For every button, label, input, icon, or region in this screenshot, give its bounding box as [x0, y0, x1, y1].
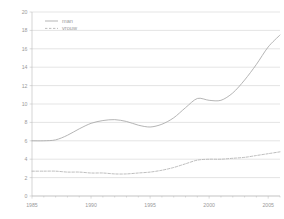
x-tick-label-2005: 2005: [262, 202, 274, 208]
y-tick-label-8: 8: [25, 119, 28, 125]
series-group: [32, 35, 280, 174]
x-tick-label-2000: 2000: [203, 202, 215, 208]
y-tick-label-4: 4: [25, 156, 28, 162]
x-tick-label-1985: 1985: [26, 202, 38, 208]
legend-label-vrouw: vrouw: [62, 25, 78, 31]
y-tick-label-18: 18: [22, 27, 28, 33]
y-tick-label-20: 20: [22, 9, 28, 15]
x-tick-label-1990: 1990: [85, 202, 97, 208]
chart-canvas: 02468101214161820 19851990199520002005 m…: [0, 0, 284, 219]
series-line-vrouw: [32, 152, 280, 174]
x-axis: [32, 196, 280, 199]
x-tick-label-1995: 1995: [144, 202, 156, 208]
y-tick-label-0: 0: [25, 193, 28, 199]
legend: manvrouw: [45, 18, 78, 31]
y-tick-label-6: 6: [25, 138, 28, 144]
y-tick-label-16: 16: [22, 46, 28, 52]
y-tick-label-10: 10: [22, 101, 28, 107]
y-tick-labels: 02468101214161820: [22, 9, 28, 199]
y-tick-label-12: 12: [22, 83, 28, 89]
y-axis: [30, 12, 32, 196]
gridlines-group: [32, 12, 280, 196]
line-chart: 02468101214161820 19851990199520002005 m…: [0, 0, 284, 219]
y-tick-label-2: 2: [25, 175, 28, 181]
legend-label-man: man: [62, 18, 73, 24]
y-tick-label-14: 14: [22, 64, 28, 70]
series-line-man: [32, 35, 280, 141]
x-tick-labels: 19851990199520002005: [26, 202, 274, 208]
